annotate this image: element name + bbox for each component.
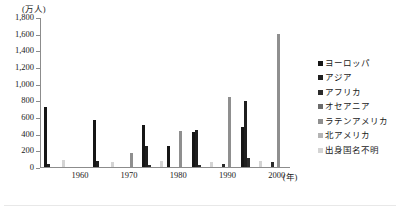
legend-item[interactable]: アフリカ (318, 85, 400, 100)
y-axis-tick-label: 1,200 (15, 62, 34, 72)
y-axis-tick-mark (36, 118, 40, 119)
x-axis-tick-label: 1990 (214, 170, 242, 180)
y-axis-tick-mark (36, 51, 40, 52)
legend-swatch (318, 75, 323, 80)
bar (130, 153, 133, 167)
x-axis-line (40, 167, 290, 168)
legend-swatch (318, 104, 323, 109)
bar (277, 34, 280, 167)
legend-label: ラテンアメリカ (325, 117, 388, 126)
bar (62, 160, 65, 168)
legend-label: オセアニア (325, 102, 370, 111)
bar (148, 165, 151, 167)
bar (167, 146, 170, 167)
y-axis-tick-mark (36, 68, 40, 69)
x-axis-tick-label: 1980 (164, 170, 192, 180)
legend-item[interactable]: ラテンアメリカ (318, 114, 400, 129)
bar-groups (41, 18, 290, 167)
bar-group (241, 18, 262, 167)
legend-swatch (318, 148, 323, 153)
bar (44, 107, 47, 167)
bar (145, 146, 148, 167)
y-axis-tick-label: 1,600 (15, 29, 34, 39)
y-axis-tick-mark (36, 35, 40, 36)
legend-item[interactable]: 北アメリカ (318, 129, 400, 144)
bottom-divider (4, 205, 396, 206)
legend-swatch (318, 61, 323, 66)
y-axis-tick-label: 600 (21, 112, 34, 122)
y-axis-tick-label: 400 (21, 129, 34, 139)
plot-area: 1,8001,6001,4001,2001,0008006004002000 (40, 18, 290, 168)
bar (160, 161, 163, 167)
bar-group (44, 18, 65, 167)
bar (198, 165, 201, 168)
bar-group (216, 18, 237, 167)
chart-legend: ヨーロッパアジアアフリカオセアニアラテンアメリカ北アメリカ出身国名不明 (318, 56, 400, 158)
bar (259, 161, 262, 167)
y-axis-tick-label: 1,800 (15, 12, 34, 22)
bar (222, 164, 225, 167)
legend-swatch (318, 119, 323, 124)
y-axis-tick-mark (36, 101, 40, 102)
legend-label: 北アメリカ (325, 131, 370, 140)
bar-group (192, 18, 213, 167)
x-axis-labels: 19601970198019902000(年) (40, 170, 330, 184)
legend-item[interactable]: ヨーロッパ (318, 56, 400, 71)
bar (247, 158, 250, 167)
bar-group (118, 18, 139, 167)
bar (210, 162, 213, 167)
y-axis-tick-label: 1,400 (15, 45, 34, 55)
bar (228, 97, 231, 167)
y-axis-tick-mark (36, 18, 40, 19)
bar (47, 164, 50, 167)
bar (111, 162, 114, 167)
legend-item[interactable]: アジア (318, 71, 400, 86)
bar (179, 131, 182, 167)
y-axis-tick-label: 1,000 (15, 79, 34, 89)
legend-label: 出身国名不明 (325, 146, 379, 155)
x-axis-unit-label: (年) (283, 170, 298, 182)
y-axis-tick-mark (36, 135, 40, 136)
x-axis-tick-label: 1960 (66, 170, 94, 180)
bar (271, 162, 274, 167)
y-axis-tick-label: 200 (21, 145, 34, 155)
legend-item[interactable]: 出身国名不明 (318, 143, 400, 158)
y-axis-tick-label: 800 (21, 95, 34, 105)
y-axis-tick-mark (36, 151, 40, 152)
legend-label: アフリカ (325, 88, 361, 97)
legend-label: アジア (325, 73, 352, 82)
bar-chart: (万人) 1,8001,6001,4001,2001,0008006004002… (0, 0, 400, 208)
y-axis-tick-mark (36, 85, 40, 86)
bar (195, 130, 198, 168)
bar (96, 161, 99, 167)
bar-group (142, 18, 163, 167)
y-axis-tick-label: 0 (30, 162, 34, 172)
bar-group (167, 18, 188, 167)
legend-swatch (318, 90, 323, 95)
bar-group (265, 18, 286, 167)
x-axis-tick-label: 1970 (115, 170, 143, 180)
bar-group (69, 18, 90, 167)
legend-label: ヨーロッパ (325, 59, 370, 68)
y-axis-tick-mark (36, 168, 40, 169)
bar-group (93, 18, 114, 167)
legend-item[interactable]: オセアニア (318, 100, 400, 115)
legend-swatch (318, 133, 323, 138)
